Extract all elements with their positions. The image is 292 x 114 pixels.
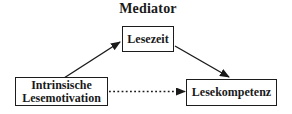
predictor-node: Intrinsische Lesemotivation xyxy=(15,77,108,106)
arrow-lesezeit-to-lesekompetenz xyxy=(175,46,229,77)
predictor-node-label-line1: Intrinsische xyxy=(31,79,92,92)
mediation-diagram: Mediator Lesezeit Intrinsische Lesemotiv… xyxy=(0,0,292,114)
outcome-node: Lesekompetenz xyxy=(186,79,277,106)
mediator-node-label: Lesezeit xyxy=(127,33,168,46)
predictor-node-label-line2: Lesemotivation xyxy=(22,92,101,105)
mediator-node: Lesezeit xyxy=(122,26,174,52)
outcome-node-label: Lesekompetenz xyxy=(192,86,271,99)
diagram-title: Mediator xyxy=(103,1,193,17)
arrow-motivation-to-lesezeit xyxy=(64,42,120,78)
